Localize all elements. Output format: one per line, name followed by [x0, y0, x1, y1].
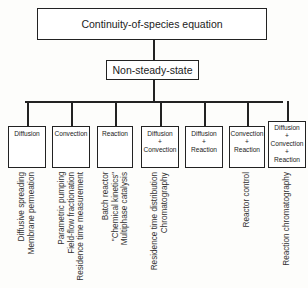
- application-item: Diffusive spreading: [17, 172, 27, 254]
- application-item: Membrane permeation: [27, 172, 37, 254]
- application-item: Reactor control: [242, 172, 252, 228]
- category-label-line: Reaction: [231, 146, 264, 154]
- application-list: Reactor control: [242, 172, 252, 228]
- category-label-line: Reaction: [102, 130, 128, 138]
- category-node: Reaction: [97, 126, 133, 168]
- connector-bus-to-category: [115, 101, 117, 126]
- category-label-line: Diffusion: [271, 124, 304, 132]
- connector-bus-to-category: [287, 101, 289, 121]
- category-label: Convection+Reaction: [231, 130, 264, 154]
- category-label-line: Convection: [144, 146, 177, 154]
- category-label-line: +: [271, 148, 304, 156]
- level1-label: Non-steady-state: [113, 64, 193, 76]
- category-label-line: Convection: [231, 130, 264, 138]
- connector-bus-to-category: [160, 101, 162, 126]
- application-item: Reaction chromatography: [282, 172, 292, 266]
- category-label-line: Diffusion: [14, 130, 40, 138]
- connector-level1-to-bus: [153, 80, 155, 102]
- category-label: Diffusion+Convection+Reaction: [271, 124, 304, 164]
- category-node: Diffusion+Convection: [141, 126, 179, 168]
- connector-root-to-level1: [153, 40, 155, 60]
- application-item: Multiphase catalysis: [120, 172, 130, 245]
- category-node: Diffusion: [8, 126, 46, 168]
- category-label-line: Diffusion: [144, 130, 177, 138]
- category-label: Diffusion+Convection: [144, 130, 177, 154]
- category-label-line: +: [144, 138, 177, 146]
- connector-bus-to-category: [247, 101, 249, 126]
- category-node: Convection: [52, 126, 90, 168]
- category-label-line: +: [191, 138, 217, 146]
- application-item: "Chemical kinetics": [110, 172, 120, 245]
- application-item: Chromatography: [160, 172, 170, 270]
- connector-bus-to-category: [204, 101, 206, 126]
- category-label-line: Reaction: [271, 156, 304, 164]
- category-node: Diffusion+Reaction: [185, 126, 223, 168]
- level1-node: Non-steady-state: [106, 60, 199, 80]
- application-list: Parametric pumpingField-flow fractionati…: [57, 172, 86, 281]
- category-label-line: +: [231, 138, 264, 146]
- application-item: Residence time measurement: [76, 172, 86, 281]
- category-label: Reaction: [102, 130, 128, 138]
- application-list: Reaction chromatography: [282, 172, 292, 266]
- application-list: Diffusive spreadingMembrane permeation: [17, 172, 36, 254]
- application-list: Batch reactor"Chemical kinetics"Multipha…: [101, 172, 130, 245]
- category-label-line: Diffusion: [191, 130, 217, 138]
- category-node: Convection+Reaction: [229, 126, 265, 168]
- category-label-line: Reaction: [191, 146, 217, 154]
- horizontal-bus: [25, 101, 283, 103]
- category-label: Convection: [55, 130, 88, 138]
- category-label-line: Convection: [55, 130, 88, 138]
- category-label: Diffusion: [14, 130, 40, 138]
- application-item: Batch reactor: [101, 172, 111, 245]
- connector-bus-to-category: [27, 101, 29, 126]
- category-node: Diffusion+Convection+Reaction: [268, 121, 306, 168]
- application-item: Field-flow fractionation: [66, 172, 76, 281]
- category-label-line: Convection: [271, 140, 304, 148]
- root-node: Continuity-of-species equation: [37, 8, 267, 40]
- application-item: Residence time distribution: [150, 172, 160, 270]
- connector-bus-to-category: [71, 101, 73, 126]
- category-label: Diffusion+Reaction: [191, 130, 217, 154]
- application-item: Parametric pumping: [57, 172, 67, 281]
- category-label-line: +: [271, 132, 304, 140]
- application-list: Residence time distributionChromatograph…: [150, 172, 169, 270]
- root-label: Continuity-of-species equation: [81, 18, 222, 30]
